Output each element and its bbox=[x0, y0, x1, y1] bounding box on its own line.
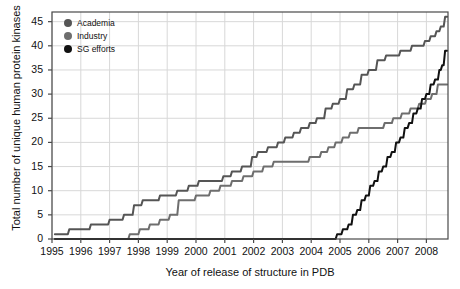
y-tick-label: 25 bbox=[21, 111, 43, 123]
legend-marker-icon bbox=[64, 45, 72, 53]
x-tick-label: 2008 bbox=[406, 245, 446, 257]
y-tick-label: 45 bbox=[21, 15, 43, 27]
y-tick-label: 20 bbox=[21, 135, 43, 147]
legend-item: Industry bbox=[64, 30, 115, 42]
chart-legend: AcademiaIndustrySG efforts bbox=[64, 17, 115, 56]
legend-marker-icon bbox=[64, 32, 72, 40]
chart-figure: Total number of unique human protein kin… bbox=[0, 0, 460, 289]
legend-item: Academia bbox=[64, 17, 115, 29]
y-tick-label: 30 bbox=[21, 87, 43, 99]
legend-label: SG efforts bbox=[77, 43, 115, 55]
legend-label: Industry bbox=[77, 30, 107, 42]
y-tick-label: 0 bbox=[21, 232, 43, 244]
legend-label: Academia bbox=[77, 17, 115, 29]
y-tick-label: 10 bbox=[21, 184, 43, 196]
y-tick-label: 5 bbox=[21, 208, 43, 220]
y-tick-label: 15 bbox=[21, 160, 43, 172]
legend-item: SG efforts bbox=[64, 43, 115, 55]
y-tick-label: 35 bbox=[21, 63, 43, 75]
y-tick-label: 40 bbox=[21, 39, 43, 51]
legend-marker-icon bbox=[64, 19, 72, 27]
